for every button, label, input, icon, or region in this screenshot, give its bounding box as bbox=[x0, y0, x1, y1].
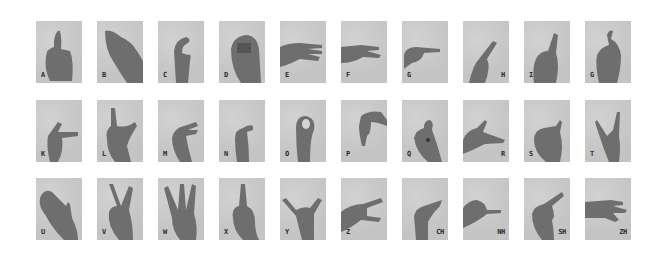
sign-card-p: P bbox=[341, 100, 387, 162]
sign-letter-label: B bbox=[102, 72, 106, 79]
sign-card-l: L bbox=[97, 100, 143, 162]
sign-card-m: M bbox=[158, 100, 204, 162]
sign-card-y: Y bbox=[280, 178, 326, 240]
sign-letter-label: M bbox=[163, 151, 167, 158]
sign-card-q: Q bbox=[402, 100, 448, 162]
sign-letter-label: S bbox=[529, 151, 533, 158]
sign-card-b: B bbox=[97, 21, 143, 83]
sign-letter-label: X bbox=[224, 229, 228, 236]
sign-card-x: X bbox=[219, 178, 265, 240]
sign-card-zh: ZH bbox=[585, 178, 631, 240]
sign-card-nh: NH bbox=[463, 178, 509, 240]
sign-letter-label: D bbox=[224, 72, 228, 79]
sign-card-w: W bbox=[158, 178, 204, 240]
sign-card-r: R bbox=[463, 100, 509, 162]
sign-letter-label: N bbox=[224, 151, 228, 158]
sign-letter-label: C bbox=[163, 72, 167, 79]
sign-card-e: E bbox=[280, 21, 326, 83]
sign-letter-label: U bbox=[41, 229, 45, 236]
sign-card-t: T bbox=[585, 100, 631, 162]
sign-card-f: F bbox=[341, 21, 387, 83]
sign-card-g: G bbox=[402, 21, 448, 83]
sign-letter-label: SH bbox=[558, 229, 566, 236]
sign-card-o: O bbox=[280, 100, 326, 162]
sign-letter-label: K bbox=[41, 151, 45, 158]
sign-card-v: V bbox=[97, 178, 143, 240]
sign-card-d: D bbox=[219, 21, 265, 83]
sign-letter-label: H bbox=[501, 72, 505, 79]
sign-letter-label: V bbox=[102, 229, 106, 236]
sign-letter-label: G bbox=[407, 72, 411, 79]
sign-card-n: N bbox=[219, 100, 265, 162]
sign-card-h: H bbox=[463, 21, 509, 83]
sign-card-i: I bbox=[524, 21, 570, 83]
sign-card-c: C bbox=[158, 21, 204, 83]
sign-card-sh: SH bbox=[524, 178, 570, 240]
sign-letter-label: O bbox=[285, 151, 289, 158]
sign-card-u: U bbox=[36, 178, 82, 240]
sign-letter-label: T bbox=[590, 151, 594, 158]
sign-letter-label: R bbox=[501, 151, 505, 158]
sign-card-s: S bbox=[524, 100, 570, 162]
sign-letter-label: L bbox=[102, 151, 106, 158]
sign-letter-label: A bbox=[41, 72, 45, 79]
sign-letter-label: P bbox=[346, 151, 350, 158]
sign-letter-label: NH bbox=[497, 229, 505, 236]
sign-letter-label: Q bbox=[407, 151, 411, 158]
sign-letter-label: I bbox=[529, 72, 533, 79]
sign-letter-label: CH bbox=[436, 229, 444, 236]
sign-letter-label: W bbox=[163, 229, 167, 236]
sign-letter-label: ZH bbox=[619, 229, 627, 236]
sign-letter-label: Z bbox=[346, 229, 350, 236]
sign-letter-label: F bbox=[346, 72, 350, 79]
sign-letter-label: G bbox=[590, 72, 594, 79]
sign-letter-label: E bbox=[285, 72, 289, 79]
sign-card-g2: G bbox=[585, 21, 631, 83]
sign-card-a: A bbox=[36, 21, 82, 83]
sign-letter-label: Y bbox=[285, 229, 289, 236]
sign-card-z: Z bbox=[341, 178, 387, 240]
sign-card-ch: CH bbox=[402, 178, 448, 240]
sign-card-k: K bbox=[36, 100, 82, 162]
